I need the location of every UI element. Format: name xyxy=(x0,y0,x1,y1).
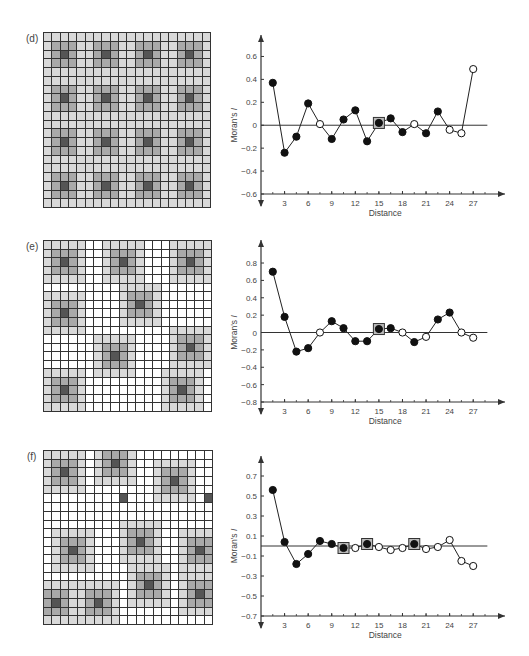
grid-cell xyxy=(136,344,143,352)
grid-cell xyxy=(120,267,127,275)
grid-cell xyxy=(162,555,169,563)
grid-cell xyxy=(205,529,212,537)
grid-cell xyxy=(103,344,110,352)
grid-cell xyxy=(128,318,135,326)
grid-cell xyxy=(95,547,102,555)
grid-cell xyxy=(127,147,134,155)
x-tick-label: 24 xyxy=(445,621,454,630)
x-tick-label: 18 xyxy=(398,621,407,630)
grid-cell xyxy=(169,138,176,146)
grid-cell xyxy=(203,112,210,120)
grid-cell xyxy=(52,573,59,581)
grid-cell xyxy=(186,164,193,172)
grid-cell xyxy=(111,182,118,190)
grid-cell xyxy=(196,503,203,511)
grid-cell xyxy=(128,378,135,386)
grid-cell xyxy=(120,608,127,616)
grid-cell xyxy=(120,292,127,300)
grid-cell xyxy=(69,608,76,616)
grid-cell xyxy=(187,344,194,352)
grid-cell xyxy=(103,284,110,292)
grid-cell xyxy=(61,164,68,172)
grid-cell xyxy=(186,138,193,146)
grid-cell xyxy=(86,344,93,352)
grid-cell xyxy=(178,68,185,76)
grid-cell xyxy=(128,555,135,563)
grid-cell xyxy=(120,468,127,476)
grid-cell xyxy=(154,581,161,589)
grid-cell xyxy=(95,460,102,468)
grid-cell xyxy=(69,318,76,326)
grid-cell xyxy=(161,59,168,67)
grid-cell xyxy=(153,173,160,181)
x-tick-label: 27 xyxy=(469,407,478,416)
grid-cell xyxy=(86,564,93,572)
grid-cell xyxy=(162,369,169,377)
grid-cell xyxy=(77,138,84,146)
grid-cell xyxy=(120,512,127,520)
grid-cell xyxy=(186,33,193,41)
grid-cell xyxy=(111,292,118,300)
grid-cell xyxy=(44,258,51,266)
grid-cell xyxy=(178,284,185,292)
grid-cell xyxy=(153,386,160,394)
grid-cell xyxy=(204,361,211,369)
grid-cell xyxy=(196,555,203,563)
grid-cell xyxy=(144,68,151,76)
grid-cell xyxy=(137,590,144,598)
grid-cell xyxy=(194,156,201,164)
grid-cell xyxy=(137,599,144,607)
grid-cell xyxy=(86,267,93,275)
grid-cell xyxy=(195,395,202,403)
grid-cell xyxy=(161,94,168,102)
grid-cell xyxy=(188,451,195,459)
grid-cell xyxy=(52,335,59,343)
grid-cell xyxy=(145,521,152,529)
morans-i-chart-e: 369121518212427−0.8−0.6−0.4−0.200.20.40.… xyxy=(230,232,520,422)
grid-cell xyxy=(127,68,134,76)
grid-cell xyxy=(69,59,76,67)
grid-cell xyxy=(61,275,68,283)
grid-cell xyxy=(86,284,93,292)
grid-cell xyxy=(120,369,127,377)
grid-cell xyxy=(137,547,144,555)
grid-cell xyxy=(69,42,76,50)
grid-cell xyxy=(120,521,127,529)
x-axis-label: Distance xyxy=(369,630,402,640)
grid-cell xyxy=(44,309,51,317)
grid-cell xyxy=(195,335,202,343)
grid-cell xyxy=(77,59,84,67)
grid-cell xyxy=(111,250,118,258)
x-tick-label: 6 xyxy=(306,621,311,630)
grid-cell xyxy=(86,616,93,624)
grid-cell xyxy=(161,51,168,59)
significant-point-marker xyxy=(340,544,347,551)
grid-cell xyxy=(196,451,203,459)
y-axis-down-arrow-icon xyxy=(258,200,264,207)
grid-cell xyxy=(61,369,68,377)
grid-cell xyxy=(161,121,168,129)
grid-cell xyxy=(127,173,134,181)
grid-cell xyxy=(171,599,178,607)
grid-cell xyxy=(178,386,185,394)
grid-cell xyxy=(136,378,143,386)
grid-cell xyxy=(136,94,143,102)
grid-cell xyxy=(144,199,151,207)
grid-cell xyxy=(103,258,110,266)
grid-cell xyxy=(128,344,135,352)
grid-cell xyxy=(78,403,85,411)
grid-cell xyxy=(195,284,202,292)
grid-cell xyxy=(112,538,119,546)
grid-cell xyxy=(95,512,102,520)
grid-cell xyxy=(128,403,135,411)
grid-cell xyxy=(187,275,194,283)
grid-cell xyxy=(145,369,152,377)
grid-cell xyxy=(161,129,168,137)
grid-cell xyxy=(194,94,201,102)
grid-cell xyxy=(127,112,134,120)
grid-cell xyxy=(119,103,126,111)
grid-cell xyxy=(86,555,93,563)
grid-cell xyxy=(187,327,194,335)
grid-cell xyxy=(162,267,169,275)
grid-cell xyxy=(44,68,51,76)
